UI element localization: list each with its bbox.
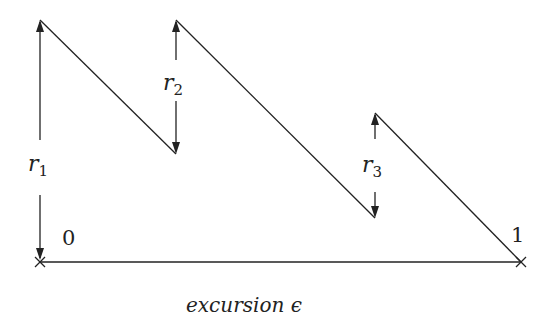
r3-symbol: r (362, 152, 373, 177)
x-axis-label: excursion ϵ (186, 295, 302, 315)
end-label: 1 (511, 225, 524, 246)
sawtooth-diagram (0, 0, 557, 331)
r2-subscript: 2 (174, 81, 184, 99)
r1-label: r1 (28, 153, 48, 179)
r1-symbol: r (28, 151, 39, 176)
r3-subscript: 3 (373, 163, 383, 181)
start-label: 0 (62, 228, 75, 249)
r3-down-arrowhead-icon (371, 206, 379, 218)
r3-up-arrowhead-icon (371, 113, 379, 125)
r2-symbol: r (163, 70, 174, 95)
decay-segment-2 (176, 20, 375, 218)
r1-subscript: 1 (39, 162, 49, 180)
r3-label: r3 (362, 154, 382, 180)
r2-up-arrowhead-icon (172, 20, 180, 32)
r1-up-arrowhead-icon (36, 20, 44, 32)
r2-down-arrowhead-icon (172, 142, 180, 154)
r2-label: r2 (163, 72, 183, 98)
r1-down-arrowhead-icon (36, 248, 44, 260)
decay-segment-1 (40, 20, 176, 154)
decay-segment-3 (375, 113, 521, 262)
